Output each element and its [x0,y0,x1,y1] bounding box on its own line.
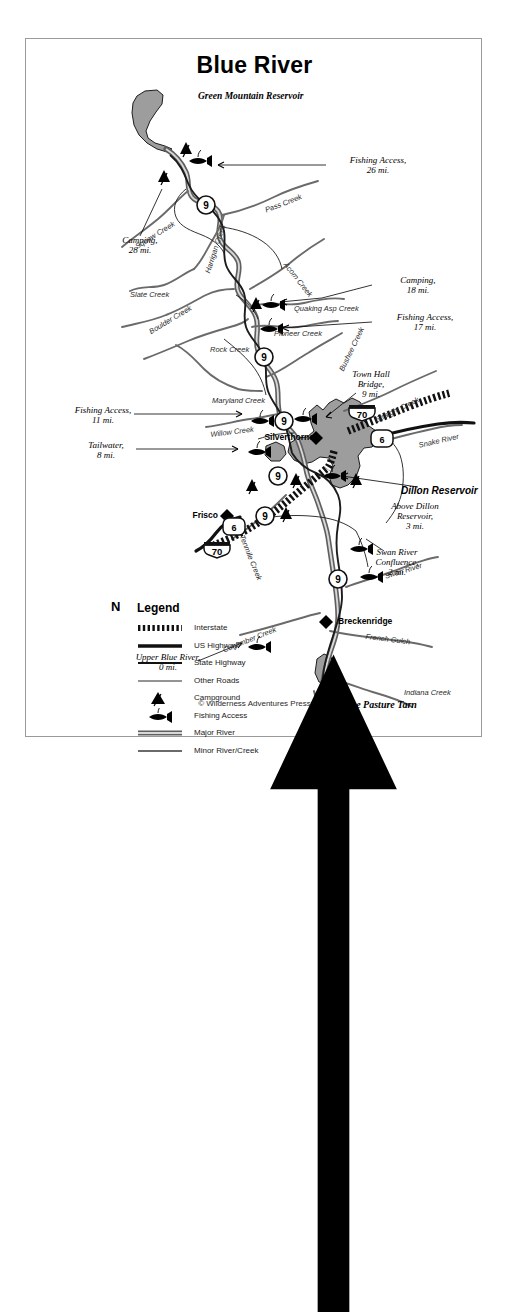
legend-row-fishing-access: Fishing Access [136,708,286,726]
legend-label-other-roads: Other Roads [194,676,239,685]
callout-swan-river-confluence-2: Swan RiverConfluence,2 mi. [348,547,446,577]
shield-us-6: 6 [371,430,393,447]
svg-text:6: 6 [231,523,236,533]
label-silverthorne: Silverthorne [254,433,314,443]
legend-row-interstate: Interstate [136,620,286,638]
svg-text:70: 70 [212,546,223,557]
label-dillon-reservoir: Dillon Reservoir [401,485,461,496]
shield-state-9: 9 [256,507,274,525]
shield-state-9: 9 [275,412,293,430]
shield-interstate-70: 70 [204,542,230,558]
svg-text:9: 9 [261,352,267,363]
creek-bushee [266,333,342,377]
legend-label-interstate: Interstate [194,623,227,632]
other-roads-icon [136,673,188,690]
compass-rose: N [106,599,138,699]
campground-marker [158,170,170,185]
map-plate: Blue River [25,38,482,737]
svg-text:9: 9 [262,511,268,522]
legend-label-state-highway: State Highway [194,658,246,667]
campground-marker [246,479,258,494]
label-green-mountain-reservoir: Green Mountain Reservoir [198,91,308,102]
legend-row-minor-river: Minor River/Creek [136,743,286,761]
svg-text:70: 70 [357,409,368,420]
state-highway-icon [136,655,188,672]
fishing-access-icon [136,708,188,725]
legend-label-major-river: Major River [194,728,235,737]
us-highway-icon [136,638,188,655]
running-head: 146 Fisherman's Guide to Colorado [0,0,507,8]
legend-label-us-highway: US Highway [194,641,238,650]
minor-river-icon [136,743,188,760]
legend-row-state-highway: State Highway [136,655,286,673]
campground-marker [180,142,192,157]
shield-state-9: 9 [269,467,287,485]
svg-text:9: 9 [281,416,287,427]
callout-fishing-access-11: Fishing Access,11 mi. [54,405,152,425]
callout-fishing-access-17: Fishing Access,17 mi. [370,312,480,332]
creek-pioneer [252,321,338,327]
creek-slate [130,269,194,291]
legend-row-us-highway: US Highway [136,638,286,656]
label-creek-rock: Rock Creek [210,346,244,354]
svg-text:9: 9 [335,574,341,585]
shield-us-6: 6 [223,518,245,535]
shield-state-9: 9 [255,348,273,366]
callout-fishing-access-26: Fishing Access,26 mi. [326,155,430,175]
legend-label-minor-river: Minor River/Creek [194,746,258,755]
label-creek-maryland: Maryland Creek [212,397,262,405]
book-title: Fisherman's Guide to Colorado [62,0,231,2]
callout-camping-28: Camping,28 mi. [94,235,186,255]
legend-row-other-roads: Other Roads [136,673,286,691]
fishing-access-marker [248,441,271,458]
legend: Legend Interstate US Highway State Highw… [136,601,286,760]
callout-camping-18: Camping,18 mi. [370,275,466,295]
svg-text:9: 9 [275,471,281,482]
label-creek-slate: Slate Creek [130,291,169,299]
interstate-icon [136,620,188,637]
road-other-2 [222,227,282,269]
label-creek-quaking-asp: Quaking Asp Creek [294,305,359,313]
legend-label-fishing-access: Fishing Access [194,711,247,720]
callout-town-hall-bridge-9: Town HallBridge,9 mi. [332,369,410,399]
green-mountain-reservoir-shape [132,90,172,152]
svg-text:6: 6 [379,435,384,445]
callout-above-dillon-3: Above DillonReservoir,3 mi. [364,501,466,531]
label-frisco: Frisco [176,511,218,521]
label-creek-pioneer: Pioneer Creek [274,330,322,338]
campground-markers [158,142,362,522]
svg-text:9: 9 [203,200,209,211]
shield-state-9: 9 [197,196,215,214]
fishing-access-marker [189,150,212,167]
major-river-icon [136,725,188,742]
compass-north-label: N [111,599,120,614]
folio-number: 146 [14,0,34,2]
legend-title: Legend [137,601,286,615]
legend-row-major-river: Major River [136,725,286,743]
callout-tailwater-8: Tailwater,8 mi. [66,440,146,460]
shield-state-9: 9 [329,570,347,588]
copyright-notice: © Wilderness Adventures Press [26,699,483,708]
